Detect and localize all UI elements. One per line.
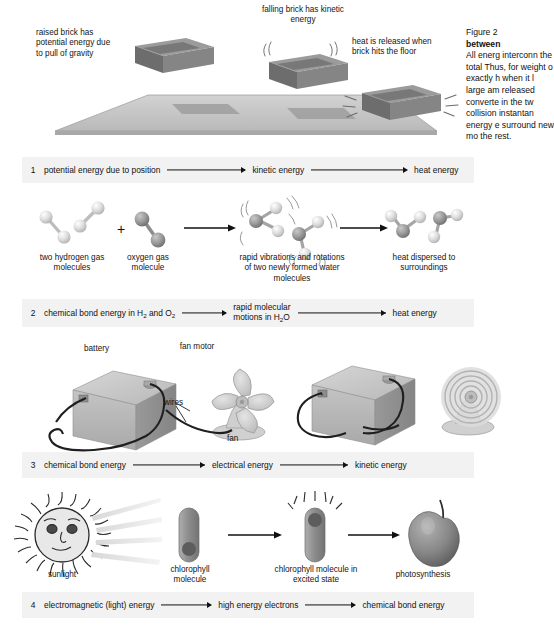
label-falling-brick: falling brick has kinetic energy — [255, 5, 351, 26]
fan-right-spinning — [441, 367, 501, 435]
label-hydrogen-molecules: two hydrogen gas molecules — [34, 253, 110, 274]
equation-term-3-3: kinetic energy — [355, 460, 407, 470]
label-battery: battery — [84, 344, 109, 354]
equation-number-2: 2 — [22, 308, 44, 318]
chlorophyll-excited — [288, 491, 342, 562]
arrow-excited-to-photosynthesis — [348, 531, 400, 538]
equation-term-4-2: high energy electrons — [218, 600, 298, 610]
raised-brick — [135, 38, 214, 73]
label-oxygen-molecule: oxygen gas molecule — [117, 253, 179, 274]
label-sunlight: sunlight — [32, 570, 92, 580]
fan-left — [212, 369, 274, 440]
equation-row-4: 4 electromagnetic (light) energy high en… — [22, 592, 474, 618]
label-heat-dispersed: heat dispersed to surroundings — [382, 253, 466, 274]
oxygen-molecule — [135, 212, 166, 248]
hydrogen-molecules — [39, 201, 104, 243]
apple — [409, 500, 460, 567]
label-photosynthesis: photosynthesis — [382, 570, 464, 580]
equation-term-2-2: rapid molecularmotions in H2O — [233, 303, 290, 322]
figure-caption-title: between — [466, 39, 500, 49]
arrow-icon — [311, 166, 407, 174]
brick-illustration — [0, 0, 470, 150]
arrow-icon — [305, 601, 355, 609]
equation-term-1-1: potential energy due to position — [44, 165, 160, 175]
arrow-icon — [182, 309, 226, 317]
equation-term-4-1: electromagnetic (light) energy — [44, 600, 154, 610]
label-heat-released: heat is released when brick hits the flo… — [352, 37, 436, 58]
equation-term-3-2: electrical energy — [212, 460, 273, 470]
equation-term-4-3: chemical bond energy — [362, 600, 444, 610]
figure-caption-number: Figure 2 — [466, 27, 498, 37]
battery-fan-illustration: + — [0, 340, 470, 445]
label-vibrations: rapid vibrations and rotations of two ne… — [238, 253, 346, 284]
label-fan-motor: fan motor — [176, 342, 218, 352]
equation-number-1: 1 — [22, 165, 44, 175]
equation-term-1-2: kinetic energy — [252, 165, 304, 175]
photosynthesis-illustration — [0, 490, 470, 582]
equation-term-3-1: chemical bond energy — [44, 460, 126, 470]
chlorophyll-molecule — [179, 508, 199, 562]
equation-term-2-1: chemical bond energy in H2 and O2 — [44, 308, 175, 318]
sun — [14, 492, 111, 577]
label-chlorophyll-excited: chlorophyll molecule in excited state — [264, 565, 368, 586]
arrow-icon — [298, 309, 386, 317]
equation-number-4: 4 — [22, 600, 44, 610]
arrow-icon — [133, 461, 205, 469]
water-molecules-dispersed — [385, 209, 463, 243]
motion-lines — [264, 42, 338, 56]
figure-caption: Figure 2 between All energ interconn the… — [466, 27, 554, 143]
falling-brick — [264, 42, 348, 89]
battery-left: + — [73, 371, 176, 450]
figure-caption-body: All energ interconn the total Thus, for … — [466, 50, 554, 141]
equation-row-1: 1 potential energy due to position kinet… — [22, 157, 474, 183]
plus-sign: + — [117, 221, 125, 237]
label-wires: wires — [164, 398, 183, 408]
equation-row-2: 2 chemical bond energy in H2 and O2 rapi… — [22, 299, 474, 327]
label-raised-brick: raised brick has potential energy due to… — [36, 28, 112, 59]
arrow-icon — [161, 601, 211, 609]
reaction-arrow-2 — [340, 224, 388, 231]
reaction-arrow-1 — [184, 224, 236, 231]
equation-number-3: 3 — [22, 460, 44, 470]
light-rays — [91, 498, 162, 565]
arrow-icon — [167, 166, 245, 174]
equation-row-3: 3 chemical bond energy electrical energy… — [22, 452, 474, 478]
equation-term-1-3: heat energy — [414, 165, 458, 175]
label-chlorophyll: chlorophyll molecule — [155, 565, 225, 586]
arrow-icon — [280, 461, 348, 469]
excitation-rays — [288, 491, 342, 509]
equation-term-2-3: heat energy — [393, 308, 437, 318]
arrow-chlorophyll-to-excited — [228, 531, 282, 538]
label-fan: fan — [227, 434, 238, 444]
